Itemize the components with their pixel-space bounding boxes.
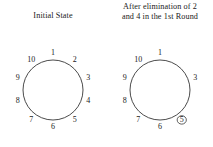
circle-node-label-10: 10 bbox=[134, 55, 142, 64]
circle-node-label-9: 9 bbox=[123, 73, 127, 82]
circle-diagram-initial-state: 12345678910 bbox=[0, 0, 106, 147]
panel-after-first-round: After elimination of 2 and 4 in the 1st … bbox=[107, 0, 213, 147]
circle-node-label-9: 9 bbox=[16, 73, 20, 82]
panel-initial-state: Initial State 12345678910 bbox=[0, 0, 106, 147]
circle-node-label-8: 8 bbox=[123, 96, 127, 105]
circle-node-label-7: 7 bbox=[29, 115, 33, 124]
circle-node-label-5: 5 bbox=[73, 115, 77, 124]
circle-outline bbox=[130, 60, 190, 120]
circle-outline bbox=[23, 60, 83, 120]
circle-node-label-3: 3 bbox=[86, 73, 90, 82]
circle-node-label-7: 7 bbox=[136, 115, 140, 124]
circle-node-label-5: 5 bbox=[180, 115, 184, 124]
josephus-figure: Initial State 12345678910 After eliminat… bbox=[0, 0, 213, 147]
circle-node-label-2: 2 bbox=[73, 55, 77, 64]
circle-node-label-10: 10 bbox=[27, 55, 35, 64]
circle-node-label-6: 6 bbox=[51, 122, 55, 131]
circle-node-label-1: 1 bbox=[51, 48, 55, 57]
circle-node-label-4: 4 bbox=[86, 96, 90, 105]
circle-node-label-1: 1 bbox=[158, 48, 162, 57]
circle-node-label-6: 6 bbox=[158, 122, 162, 131]
circle-diagram-after-first-round: 135678910 bbox=[107, 0, 213, 147]
circle-node-label-8: 8 bbox=[16, 96, 20, 105]
circle-node-label-3: 3 bbox=[193, 73, 197, 82]
